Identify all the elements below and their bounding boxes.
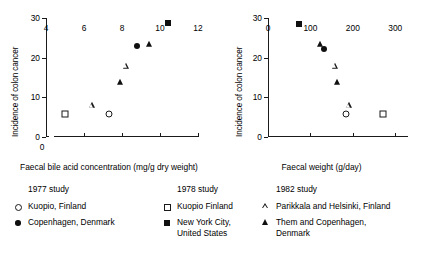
legend-heading: 1982 study [276, 184, 425, 194]
legend-item[interactable]: New York City,United States [163, 217, 263, 239]
x-tick-label: 300 [388, 24, 402, 32]
legend-heading: 1978 study [177, 184, 263, 194]
x-tick-label: 8 [120, 24, 125, 32]
x-tick-label: 200 [346, 24, 360, 32]
data-point-square-open [379, 111, 386, 118]
x-tick [160, 133, 161, 137]
legend-item-label-line2: Denmark [276, 228, 425, 239]
x-tick-label: 4 [44, 24, 49, 32]
x-tick-label: 100 [303, 24, 317, 32]
y-tick [264, 97, 268, 98]
x-tick [268, 133, 269, 137]
left-chart-x-axis-line [54, 136, 198, 137]
left-chart-plot-area: 010203046810120 [46, 18, 198, 137]
x-tick [122, 133, 123, 137]
legend-item[interactable]: Copenhagen, Denmark [14, 217, 164, 228]
data-point-circle-open [343, 110, 350, 117]
legend-item[interactable]: Kuopio, Finland [14, 201, 164, 212]
x-tick [353, 133, 354, 137]
legend: 1977 studyKuopio, FinlandCopenhagen, Den… [0, 184, 425, 270]
data-point-triangle-open [123, 62, 129, 68]
x-tick [310, 133, 311, 137]
data-point-square-filled [296, 21, 302, 27]
legend-item-label: Parikkala and Helsinki, Finland [276, 201, 391, 211]
legend-item[interactable]: Them and Copenhagen,Denmark [262, 217, 425, 239]
y-tick [264, 137, 268, 138]
legend-marker-triangle-filled-icon [262, 219, 268, 225]
data-point-triangle-open [89, 102, 95, 108]
right-chart-plot-area: 01020300100200300 [268, 18, 408, 137]
legend-item-label: New York City, [177, 217, 231, 227]
y-tick-label: 30 [31, 14, 40, 22]
y-tick [42, 137, 46, 138]
y-tick-label: 20 [31, 53, 40, 61]
y-tick-label: 20 [253, 53, 262, 61]
legend-item[interactable]: Parikkala and Helsinki, Finland [262, 201, 425, 212]
chart-panel-faecal-weight: Incidence of colon cancer Faecal weight … [218, 0, 425, 182]
y-tick [42, 58, 46, 59]
y-tick-label: 0 [257, 133, 262, 141]
x-axis-break-stub [46, 136, 49, 137]
legend-column-1: 1977 studyKuopio, FinlandCopenhagen, Den… [14, 184, 164, 233]
right-chart-x-axis-line [268, 136, 408, 137]
x-tick [395, 133, 396, 137]
data-point-triangle-open [332, 62, 338, 68]
y-tick [42, 97, 46, 98]
charts-container: Incidence of colon cancer Faecal bile ac… [0, 0, 425, 182]
left-chart-y-axis-line [46, 18, 47, 137]
legend-marker-square-filled-icon [164, 220, 170, 226]
data-point-square-open [62, 111, 69, 118]
y-tick-label: 10 [253, 93, 262, 101]
y-tick-label: 30 [253, 14, 262, 22]
left-chart-x-axis-label: Faecal bile acid concentration (mg/g dry… [0, 162, 218, 172]
x-tick-label: 10 [155, 24, 164, 32]
legend-item-label: Copenhagen, Denmark [28, 217, 115, 227]
right-chart-y-axis-label: Incidence of colon cancer [235, 47, 244, 137]
legend-item-label: Kuopio, Finland [28, 201, 86, 211]
data-point-circle-filled [134, 43, 140, 49]
data-point-triangle-filled [334, 79, 340, 85]
legend-marker-circle-filled-icon [15, 220, 21, 226]
x-tick-label: 6 [82, 24, 87, 32]
y-tick-label: 10 [31, 93, 40, 101]
x-tick-label: 0 [266, 24, 271, 32]
legend-column-2: 1978 studyKuopio FinlandNew York City,Un… [163, 184, 263, 245]
data-point-triangle-open [346, 102, 352, 108]
legend-marker-square-open-icon [164, 204, 171, 211]
x-tick [198, 133, 199, 137]
x-axis-origin-label: 0 [40, 143, 45, 151]
legend-item-label: Kuopio Finland [177, 201, 233, 211]
y-tick [264, 18, 268, 19]
right-chart-y-axis-line [268, 18, 269, 137]
x-tick [84, 133, 85, 137]
right-chart-x-axis-label: Faecal weight (g/day) [218, 162, 425, 172]
data-point-triangle-filled [117, 79, 123, 85]
chart-panel-bile-acid: Incidence of colon cancer Faecal bile ac… [0, 0, 218, 182]
legend-column-3: 1982 studyParikkala and Helsinki, Finlan… [262, 184, 425, 245]
legend-item[interactable]: Kuopio Finland [163, 201, 263, 212]
legend-marker-triangle-open-icon [262, 203, 268, 208]
left-chart-y-axis-label: Incidence of colon cancer [11, 47, 20, 137]
figure-root: Incidence of colon cancer Faecal bile ac… [0, 0, 425, 270]
legend-heading: 1977 study [28, 184, 164, 194]
legend-item-label-line2: United States [177, 228, 263, 239]
x-tick-label: 12 [193, 24, 202, 32]
data-point-triangle-filled [146, 41, 152, 47]
data-point-circle-open [105, 110, 112, 117]
legend-marker-circle-open-icon [15, 204, 22, 211]
y-tick [264, 58, 268, 59]
data-point-square-filled [165, 20, 171, 26]
legend-item-label: Them and Copenhagen, [276, 217, 366, 227]
y-tick-label: 0 [35, 133, 40, 141]
data-point-triangle-filled [317, 40, 323, 46]
y-tick [42, 18, 46, 19]
